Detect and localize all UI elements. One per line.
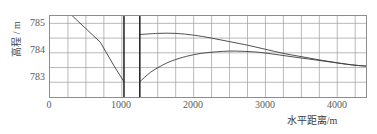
plot-area — [49, 15, 367, 98]
x-axis-tick-label: 0 — [29, 100, 69, 110]
elevation-distance-chart: 高程 / m 785 784 783 0 1000 2000 3000 4000… — [0, 0, 377, 134]
data-curves — [50, 16, 366, 97]
y-axis-tick-label: 783 — [18, 72, 45, 82]
x-axis-tick-label: 3000 — [245, 100, 285, 110]
x-axis-tick-label: 1000 — [101, 100, 141, 110]
y-axis-tick-label: 784 — [18, 45, 45, 55]
x-axis-title: 水平距离/m — [252, 115, 372, 126]
x-axis-tick-label: 2000 — [173, 100, 213, 110]
y-axis-tick-label: 785 — [18, 18, 45, 28]
x-axis-tick-label: 4000 — [317, 100, 357, 110]
